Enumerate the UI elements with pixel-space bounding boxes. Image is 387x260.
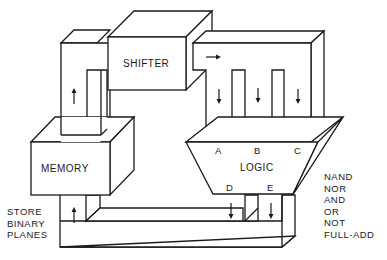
logic-output-d: D — [226, 182, 233, 194]
shifter-label: SHIFTER — [123, 58, 169, 70]
logic-operation: NAND — [324, 171, 374, 183]
memory-note-line: STORE — [7, 206, 48, 218]
logic-input-c: C — [294, 145, 301, 157]
logic-block — [186, 117, 343, 194]
memory-label: MEMORY — [41, 163, 89, 175]
logic-operation: FULL-ADD — [324, 229, 374, 241]
arrow-down-icon — [269, 203, 274, 219]
logic-input-a: A — [215, 145, 222, 157]
memory-note: STORE BINARY PLANES — [7, 206, 48, 241]
logic-operation: NOT — [324, 217, 374, 229]
logic-input-b: B — [254, 145, 261, 157]
logic-label: LOGIC — [240, 162, 274, 174]
logic-output-e: E — [267, 182, 274, 194]
logic-operations-list: NAND NOR AND OR NOT FULL-ADD — [324, 171, 374, 240]
memory-note-line: PLANES — [7, 229, 48, 241]
logic-operation: OR — [324, 206, 374, 218]
memory-block — [31, 117, 134, 195]
memory-note-line: BINARY — [7, 218, 48, 230]
logic-operation: NOR — [324, 183, 374, 195]
logic-operation: AND — [324, 194, 374, 206]
bottom-return-path — [60, 195, 295, 247]
